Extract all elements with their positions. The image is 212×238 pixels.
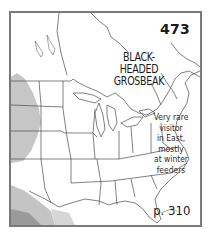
note-line: feeders: [151, 165, 191, 176]
species-title: BLACK-HEADED GROSBEAK: [106, 51, 172, 87]
page-reference: p. 310: [153, 203, 190, 218]
species-title-line1: BLACK-HEADED: [106, 51, 172, 75]
range-area-west: [11, 73, 41, 163]
range-note: Very rare visitor in East, mostly at win…: [151, 112, 191, 175]
note-line: Very rare: [151, 112, 191, 123]
note-line: at winter: [151, 154, 191, 165]
range-map-frame: 473 BLACK-HEADED GROSBEAK Very rare visi…: [9, 11, 202, 227]
species-number: 473: [160, 21, 190, 37]
note-line: in East,: [151, 133, 191, 144]
range-area-south-mex: [51, 209, 75, 225]
species-title-line2: GROSBEAK: [106, 75, 172, 87]
